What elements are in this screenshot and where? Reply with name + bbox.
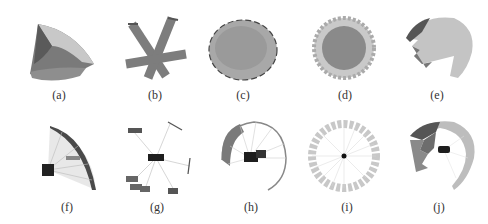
partial-hemisphere-render [392,6,482,86]
camera-fragments-render [112,118,202,198]
subfigure-caption: (h) [206,200,296,215]
star-strips-render [110,6,200,86]
partial-sphere-patches-render [394,118,484,198]
panel-d: (d) [300,6,390,110]
radial-ring-render [302,118,392,198]
panel-f: (f) [22,118,112,222]
panel-g: (g) [112,118,202,222]
subfigure-caption: (j) [394,200,484,215]
subfigure-caption: (c) [198,88,288,103]
panel-j: (j) [394,118,484,222]
panel-c: (c) [198,6,288,110]
subfigure-caption: (d) [300,88,390,103]
panel-a: (a) [14,6,104,110]
subfigure-caption: (f) [22,200,112,215]
subfigure-caption: (i) [302,200,392,215]
jagged-disk-render [300,6,390,86]
subfigure-caption: (b) [110,88,200,103]
figure-grid: (a) (b) (c) ( [0,0,488,224]
panel-b: (b) [110,6,200,110]
subfigure-caption: (a) [14,88,104,103]
subfigure-caption: (e) [392,88,482,103]
camera-rays-wall-render [22,118,112,198]
panel-h: (h) [206,118,296,222]
panel-e: (e) [392,6,482,110]
textured-disk-render [198,6,288,86]
camera-ring-render [206,118,296,198]
surface-patch-render [14,6,104,86]
panel-i: (i) [302,118,392,222]
subfigure-caption: (g) [112,200,202,215]
